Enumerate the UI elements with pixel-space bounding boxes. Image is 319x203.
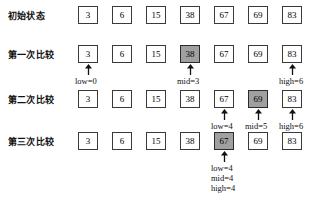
array-cell-highlighted: 38 — [180, 45, 200, 63]
pointer-arrow-icon — [288, 64, 297, 75]
pointer-label-line: mid=4 — [211, 173, 235, 183]
row-label: 第二次比较 — [8, 93, 72, 106]
pointer-arrow-icon — [288, 109, 297, 120]
binary-search-diagram: 初始状态361538676983第一次比较361538676983low=0mi… — [0, 0, 319, 203]
array-cell: 38 — [180, 6, 200, 24]
array-cell-highlighted: 67 — [214, 132, 234, 150]
pointer-label: high=6 — [279, 76, 303, 86]
pointer-label-line: mid=5 — [245, 121, 267, 131]
array-cell: 67 — [214, 90, 234, 108]
pointer-label: high=6 — [279, 121, 303, 131]
array-cell: 69 — [248, 6, 268, 24]
pointer-label-line: high=6 — [279, 76, 303, 86]
array-cell: 15 — [146, 45, 166, 63]
pointer-label-line: high=4 — [211, 183, 235, 193]
array-cell: 6 — [112, 90, 132, 108]
array-cell: 3 — [78, 132, 98, 150]
pointer-arrow-icon — [254, 109, 263, 120]
pointer-label-line: high=6 — [279, 121, 303, 131]
pointer-label: low=0 — [75, 76, 97, 86]
array-cell: 67 — [214, 6, 234, 24]
array-cell: 6 — [112, 45, 132, 63]
array-cell: 6 — [112, 132, 132, 150]
array-cell: 67 — [214, 45, 234, 63]
array-cell: 3 — [78, 45, 98, 63]
pointer-label-line: mid=3 — [177, 76, 199, 86]
array-cell: 15 — [146, 90, 166, 108]
pointer-label-line: low=4 — [211, 163, 235, 173]
row-label: 第三次比较 — [8, 135, 72, 148]
pointer-arrow-icon — [220, 109, 229, 120]
array-cell: 6 — [112, 6, 132, 24]
pointer-label-line: low=4 — [211, 121, 233, 131]
pointer-label-line: low=0 — [75, 76, 97, 86]
array-cell: 38 — [180, 90, 200, 108]
row-label: 第一次比较 — [8, 48, 72, 61]
array-cell: 83 — [282, 45, 302, 63]
array-cell: 83 — [282, 6, 302, 24]
array-cell: 3 — [78, 90, 98, 108]
array-cell: 3 — [78, 6, 98, 24]
array-cell: 69 — [248, 132, 268, 150]
pointer-label: low=4 — [211, 121, 233, 131]
array-cell: 69 — [248, 45, 268, 63]
pointer-label: mid=3 — [177, 76, 199, 86]
pointer-label: mid=5 — [245, 121, 267, 131]
pointer-arrow-icon — [220, 151, 229, 162]
pointer-arrow-icon — [186, 64, 195, 75]
array-cell: 83 — [282, 90, 302, 108]
array-cell-highlighted: 69 — [248, 90, 268, 108]
array-cell: 38 — [180, 132, 200, 150]
pointer-arrow-icon — [84, 64, 93, 75]
pointer-label: low=4mid=4high=4 — [211, 163, 235, 193]
array-cell: 15 — [146, 6, 166, 24]
array-cell: 15 — [146, 132, 166, 150]
array-cell: 83 — [282, 132, 302, 150]
row-label: 初始状态 — [8, 9, 72, 22]
